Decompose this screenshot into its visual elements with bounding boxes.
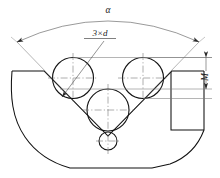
engineering-drawing-canvas: M 3×d α xyxy=(0,0,220,178)
ball-callout-label: 3×d xyxy=(91,28,108,38)
v-groove-three-ball-drawing: M 3×d α xyxy=(0,0,220,178)
m-dimension-label: M xyxy=(200,72,210,82)
angle-label-group: α xyxy=(100,4,116,15)
